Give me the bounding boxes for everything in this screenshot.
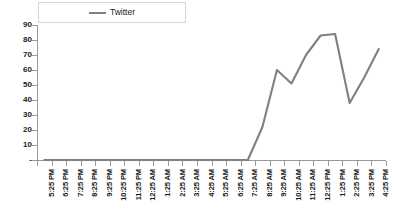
y-axis-tick-label: 70 xyxy=(2,51,32,59)
x-axis-tick-label: 12:25 AM xyxy=(149,169,157,201)
y-axis-tick-label: 80 xyxy=(2,36,32,44)
x-axis-tick-label: 3:25 PM xyxy=(368,169,376,197)
x-axis-tick-label: 4:25 PM xyxy=(382,169,390,197)
y-axis-tick-label: - xyxy=(2,156,32,164)
x-axis-tick xyxy=(371,161,372,166)
x-axis-tick xyxy=(124,161,125,166)
x-axis-tick xyxy=(284,161,285,166)
x-axis-tick-label: 5:25 AM xyxy=(222,169,230,197)
y-axis-tick xyxy=(32,145,37,146)
x-axis-tick xyxy=(313,161,314,166)
y-axis-tick-label: 50 xyxy=(2,81,32,89)
legend-item-label: Twitter xyxy=(110,8,135,17)
y-axis-tick-label: 30 xyxy=(2,111,32,119)
y-axis-tick xyxy=(32,115,37,116)
x-axis-tick-label: 9:25 PM xyxy=(106,169,114,197)
y-axis-tick-label: 20 xyxy=(2,126,32,134)
x-axis-tick-label: 4:25 AM xyxy=(208,169,216,197)
x-axis-tick-label: 7:25 AM xyxy=(251,169,259,197)
x-axis-tick-label: 8:25 AM xyxy=(266,169,274,197)
legend-item-twitter: Twitter xyxy=(89,8,135,17)
legend-line-swatch-icon xyxy=(89,12,106,14)
x-axis-tick-label: 3:25 AM xyxy=(193,169,201,197)
x-axis-tick xyxy=(182,161,183,166)
x-axis-tick xyxy=(270,161,271,166)
x-axis-tick-label: 12:25 PM xyxy=(324,169,332,201)
x-axis-tick-label: 1:25 PM xyxy=(339,169,347,197)
y-axis-tick-label: 10 xyxy=(2,141,32,149)
x-axis-tick-label: 10:25 PM xyxy=(120,169,128,201)
x-axis-tick-label: 10:25 AM xyxy=(295,169,303,201)
x-axis-tick xyxy=(241,161,242,166)
y-axis-tick-label: 40 xyxy=(2,96,32,104)
x-axis-tick xyxy=(139,161,140,166)
x-axis-tick xyxy=(212,161,213,166)
x-axis-tick-label: 6:25 AM xyxy=(237,169,245,197)
x-axis-tick-label: 2:25 PM xyxy=(353,169,361,197)
x-axis-tick xyxy=(255,161,256,166)
x-axis-tick-label: 6:25 PM xyxy=(62,169,70,197)
y-axis-labels: 908070605040302010- xyxy=(0,0,32,213)
y-axis-tick-label: 60 xyxy=(2,66,32,74)
x-axis-tick xyxy=(342,161,343,166)
y-axis-tick xyxy=(32,40,37,41)
x-axis-tick-label: 5:25 PM xyxy=(48,169,56,197)
chart-legend: Twitter xyxy=(38,2,186,23)
y-axis-tick xyxy=(32,100,37,101)
x-axis-tick xyxy=(386,161,387,166)
x-axis-tick xyxy=(95,161,96,166)
y-axis-tick xyxy=(32,130,37,131)
x-axis-tick-label: 1:25 AM xyxy=(164,169,172,197)
x-axis-tick xyxy=(168,161,169,166)
x-axis-tick xyxy=(52,161,53,166)
y-axis-tick xyxy=(32,85,37,86)
x-axis-tick-label: 8:25 PM xyxy=(91,169,99,197)
x-axis-tick xyxy=(357,161,358,166)
x-axis-tick xyxy=(66,161,67,166)
x-axis-tick xyxy=(328,161,329,166)
x-axis-tick xyxy=(197,161,198,166)
x-axis-tick-label: 9:25 AM xyxy=(280,169,288,197)
y-axis-tick xyxy=(32,70,37,71)
x-axis-tick-label: 11:25 AM xyxy=(309,169,317,200)
y-axis-line xyxy=(37,25,38,161)
x-axis-tick xyxy=(37,161,38,166)
x-axis-tick xyxy=(81,161,82,166)
x-axis-tick xyxy=(226,161,227,166)
line-chart: Twitter 908070605040302010- 5:25 PM6:25 … xyxy=(0,0,394,213)
y-axis-tick xyxy=(32,55,37,56)
x-axis-tick xyxy=(299,161,300,166)
x-axis-tick-label: 7:25 PM xyxy=(77,169,85,197)
y-axis-tick-label: 90 xyxy=(2,21,32,29)
x-axis-tick xyxy=(110,161,111,166)
x-axis-tick xyxy=(153,161,154,166)
x-axis-tick-label: 11:25 PM xyxy=(135,169,143,200)
x-axis-tick-label: 2:25 AM xyxy=(179,169,187,197)
y-axis-tick xyxy=(32,25,37,26)
